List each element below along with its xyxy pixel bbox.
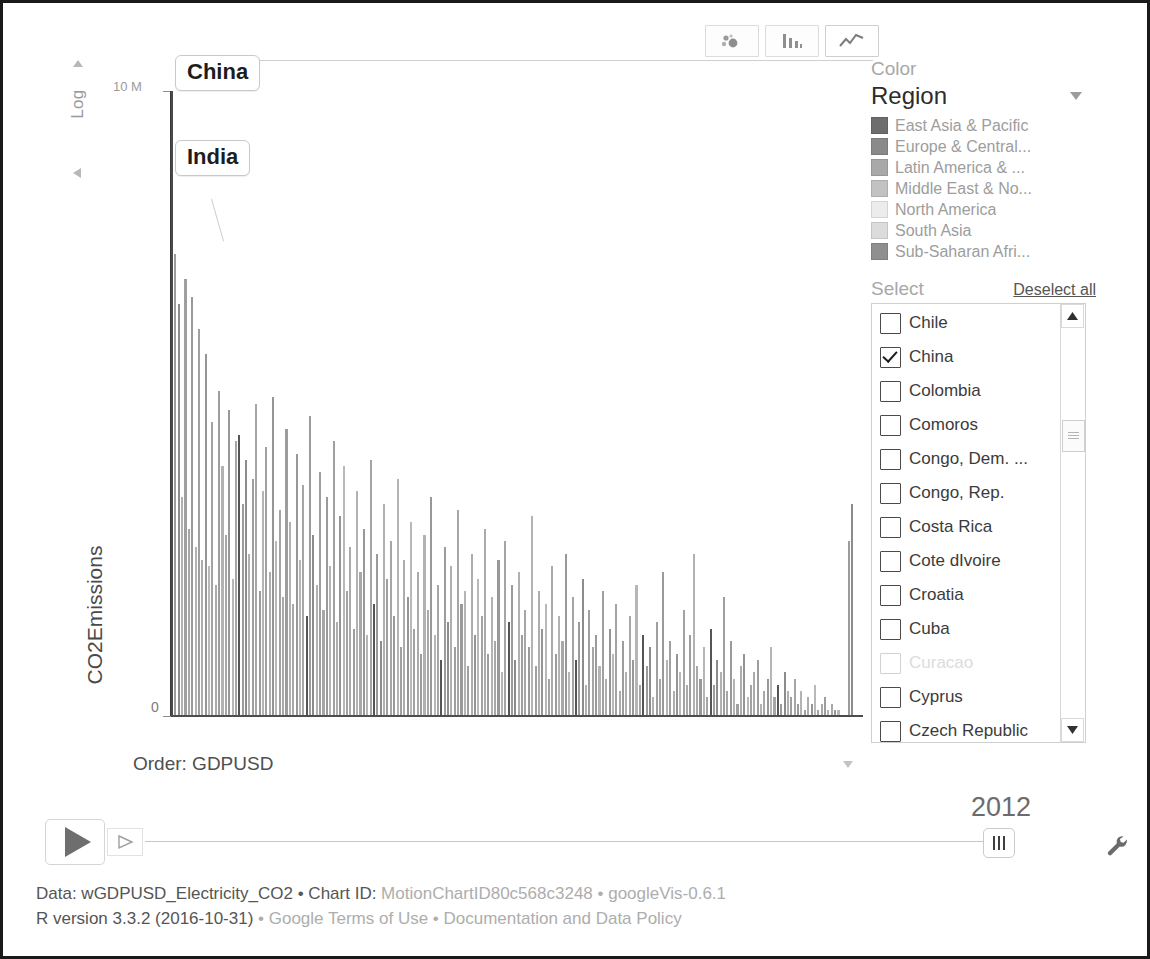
bar[interactable] bbox=[484, 529, 486, 717]
checkbox[interactable] bbox=[880, 619, 901, 640]
checkbox[interactable] bbox=[880, 449, 901, 470]
bar[interactable] bbox=[218, 391, 220, 716]
bar[interactable] bbox=[639, 685, 641, 716]
bar[interactable] bbox=[477, 579, 479, 717]
bar[interactable] bbox=[635, 585, 637, 716]
checkbox[interactable] bbox=[880, 347, 901, 368]
bar[interactable] bbox=[790, 697, 792, 716]
bar[interactable] bbox=[457, 510, 459, 716]
bar[interactable] bbox=[370, 460, 372, 716]
list-item[interactable]: Croatia bbox=[872, 578, 1060, 612]
bar[interactable] bbox=[592, 647, 594, 716]
bar[interactable] bbox=[343, 466, 345, 716]
bar[interactable] bbox=[713, 685, 715, 716]
bar[interactable] bbox=[376, 554, 378, 717]
bar[interactable] bbox=[390, 541, 392, 716]
bar[interactable] bbox=[666, 660, 668, 716]
bar[interactable] bbox=[558, 616, 560, 716]
bar[interactable] bbox=[652, 697, 654, 716]
bar[interactable] bbox=[269, 572, 271, 716]
bar[interactable] bbox=[757, 660, 759, 716]
list-scrollbar[interactable] bbox=[1060, 304, 1085, 742]
bar[interactable] bbox=[740, 666, 742, 716]
bar[interactable] bbox=[528, 647, 530, 716]
bar[interactable] bbox=[669, 641, 671, 716]
bar[interactable] bbox=[578, 622, 580, 716]
bar[interactable] bbox=[649, 647, 651, 716]
x-axis-order-bar[interactable]: Order: GDPUSD bbox=[171, 748, 863, 782]
bar[interactable] bbox=[800, 691, 802, 716]
bar[interactable] bbox=[299, 560, 301, 716]
bar[interactable] bbox=[440, 660, 442, 716]
footer-docs-link[interactable]: • Documentation and Data Policy bbox=[428, 909, 682, 928]
callout-india[interactable]: India bbox=[175, 140, 250, 176]
bar[interactable] bbox=[619, 691, 621, 716]
bar[interactable] bbox=[582, 579, 584, 717]
bar[interactable] bbox=[602, 591, 604, 716]
bar[interactable] bbox=[561, 641, 563, 716]
bar[interactable] bbox=[248, 554, 250, 717]
bar[interactable] bbox=[504, 541, 506, 716]
bar[interactable] bbox=[400, 647, 402, 716]
bar[interactable] bbox=[397, 479, 399, 717]
bar[interactable] bbox=[171, 91, 173, 716]
bar[interactable] bbox=[403, 560, 405, 716]
bar[interactable] bbox=[689, 635, 691, 716]
bar[interactable] bbox=[437, 585, 439, 716]
scroll-up-button[interactable] bbox=[1061, 304, 1084, 328]
play-button[interactable] bbox=[45, 819, 105, 865]
settings-button[interactable] bbox=[1105, 833, 1131, 863]
bar[interactable] bbox=[252, 479, 254, 717]
bar[interactable] bbox=[450, 566, 452, 716]
bar[interactable] bbox=[184, 279, 186, 717]
bar[interactable] bbox=[730, 641, 732, 716]
bar[interactable] bbox=[632, 660, 634, 716]
bar[interactable] bbox=[380, 641, 382, 716]
bar[interactable] bbox=[467, 666, 469, 716]
bar[interactable] bbox=[686, 685, 688, 716]
bar[interactable] bbox=[289, 522, 291, 716]
bar[interactable] bbox=[460, 604, 462, 717]
callout-china[interactable]: China bbox=[175, 55, 260, 91]
bar[interactable] bbox=[359, 572, 361, 716]
bar[interactable] bbox=[296, 454, 298, 717]
bar[interactable] bbox=[282, 597, 284, 716]
chevron-down-icon[interactable] bbox=[843, 761, 853, 768]
bar[interactable] bbox=[336, 622, 338, 716]
bar[interactable] bbox=[531, 516, 533, 716]
bar[interactable] bbox=[198, 329, 200, 717]
bar[interactable] bbox=[598, 666, 600, 716]
bar[interactable] bbox=[393, 616, 395, 716]
bar[interactable] bbox=[625, 672, 627, 716]
bar[interactable] bbox=[474, 635, 476, 716]
bar[interactable] bbox=[265, 447, 267, 716]
bar[interactable] bbox=[595, 635, 597, 716]
timeline-thumb[interactable] bbox=[983, 828, 1015, 858]
chevron-down-icon[interactable] bbox=[1070, 92, 1082, 100]
bar[interactable] bbox=[518, 572, 520, 716]
bar[interactable] bbox=[794, 679, 796, 717]
bar[interactable] bbox=[262, 491, 264, 716]
bar[interactable] bbox=[481, 616, 483, 716]
bar[interactable] bbox=[676, 654, 678, 717]
bar[interactable] bbox=[629, 616, 631, 716]
bar[interactable] bbox=[427, 610, 429, 716]
bar[interactable] bbox=[535, 666, 537, 716]
scrollbar-thumb[interactable] bbox=[1062, 420, 1085, 452]
bar[interactable] bbox=[333, 441, 335, 716]
bar[interactable] bbox=[605, 679, 607, 717]
bar[interactable] bbox=[178, 304, 180, 717]
bar[interactable] bbox=[346, 591, 348, 716]
list-item[interactable]: Comoros bbox=[872, 408, 1060, 442]
bar[interactable] bbox=[710, 629, 712, 717]
bar[interactable] bbox=[195, 547, 197, 716]
bar[interactable] bbox=[188, 529, 190, 717]
bar[interactable] bbox=[471, 554, 473, 717]
legend-item[interactable]: Latin America & ... bbox=[871, 157, 1096, 178]
bar[interactable] bbox=[696, 666, 698, 716]
bar[interactable] bbox=[656, 622, 658, 716]
bar[interactable] bbox=[659, 679, 661, 717]
bar[interactable] bbox=[726, 691, 728, 716]
bar[interactable] bbox=[275, 541, 277, 716]
checkbox[interactable] bbox=[880, 551, 901, 572]
